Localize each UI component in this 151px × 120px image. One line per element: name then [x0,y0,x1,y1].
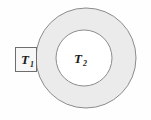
label-t2-subscript: 2 [82,59,87,68]
annulus-diagram: T 1 T 2 [0,0,151,120]
inner-circle [56,30,112,86]
figure-container: T 1 T 2 [0,0,151,120]
label-t1-subscript: 1 [30,60,34,69]
label-t2-symbol: T [74,51,83,66]
label-t1-symbol: T [21,52,30,67]
